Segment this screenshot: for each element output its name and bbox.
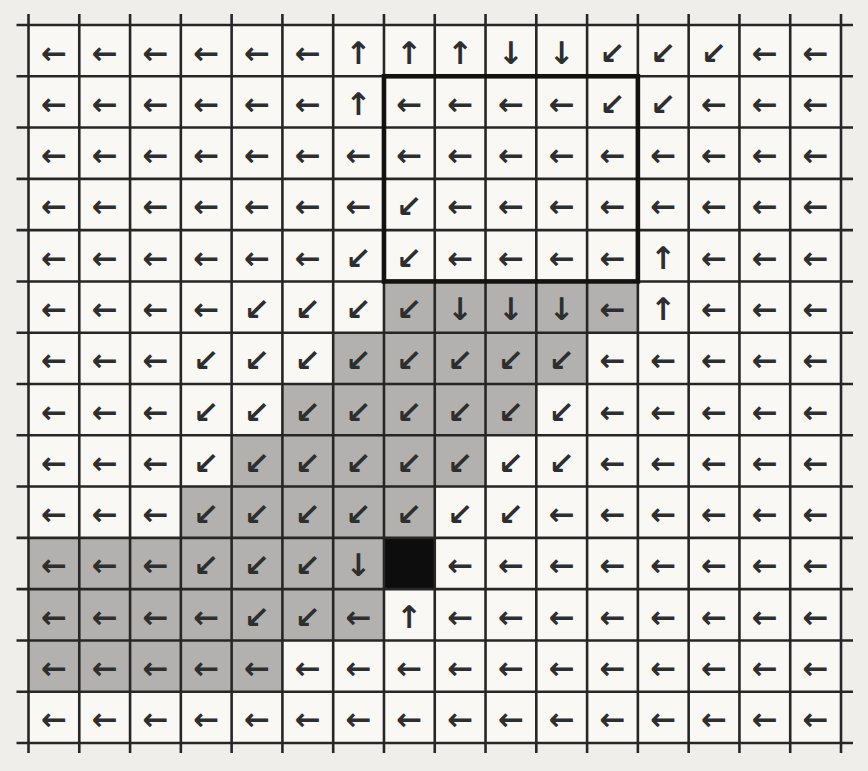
arrow-left-icon: ← bbox=[498, 701, 524, 737]
arrow-down-left-icon: ↙ bbox=[549, 394, 575, 430]
arrow-down-left-icon: ↙ bbox=[295, 394, 321, 430]
arrow-left-icon: ← bbox=[92, 547, 118, 583]
arrow-up-icon: ↑ bbox=[650, 240, 676, 276]
arrow-down-left-icon: ↙ bbox=[193, 547, 219, 583]
arrow-left-icon: ← bbox=[498, 599, 524, 635]
arrow-down-left-icon: ↙ bbox=[346, 496, 372, 532]
arrow-left-icon: ← bbox=[193, 291, 219, 327]
arrow-left-icon: ← bbox=[650, 342, 676, 378]
arrow-down-left-icon: ↙ bbox=[650, 86, 676, 122]
arrow-left-icon: ← bbox=[803, 547, 829, 583]
arrow-left-icon: ← bbox=[142, 291, 168, 327]
arrow-left-icon: ← bbox=[41, 137, 67, 173]
arrow-left-icon: ← bbox=[701, 496, 727, 532]
arrow-left-icon: ← bbox=[193, 86, 219, 122]
arrow-down-left-icon: ↙ bbox=[396, 445, 422, 481]
arrow-left-icon: ← bbox=[752, 240, 778, 276]
arrow-left-icon: ← bbox=[92, 496, 118, 532]
arrow-left-icon: ← bbox=[803, 599, 829, 635]
arrow-left-icon: ← bbox=[193, 701, 219, 737]
arrow-left-icon: ← bbox=[92, 35, 118, 71]
arrow-left-icon: ← bbox=[549, 188, 575, 224]
arrow-left-icon: ← bbox=[650, 650, 676, 686]
arrow-up-icon: ↑ bbox=[650, 291, 676, 327]
arrow-left-icon: ← bbox=[244, 86, 270, 122]
page-background: ←←←←←←↑↑↑↓↓↙↙↙←←←←←←←←↑←←←←↙↙←←←←←←←←←←←… bbox=[0, 0, 868, 771]
arrow-left-icon: ← bbox=[599, 394, 625, 430]
arrow-left-icon: ← bbox=[295, 240, 321, 276]
arrow-down-left-icon: ↙ bbox=[599, 86, 625, 122]
arrow-left-icon: ← bbox=[41, 342, 67, 378]
arrow-down-left-icon: ↙ bbox=[396, 240, 422, 276]
arrow-left-icon: ← bbox=[701, 86, 727, 122]
arrow-left-icon: ← bbox=[498, 650, 524, 686]
arrow-left-icon: ← bbox=[92, 137, 118, 173]
arrow-left-icon: ← bbox=[701, 650, 727, 686]
arrow-left-icon: ← bbox=[599, 445, 625, 481]
arrow-left-icon: ← bbox=[650, 445, 676, 481]
arrow-left-icon: ← bbox=[142, 240, 168, 276]
arrow-left-icon: ← bbox=[803, 701, 829, 737]
arrow-down-left-icon: ↙ bbox=[244, 445, 270, 481]
arrow-down-left-icon: ↙ bbox=[346, 394, 372, 430]
arrow-down-left-icon: ↙ bbox=[498, 496, 524, 532]
arrow-left-icon: ← bbox=[549, 599, 575, 635]
arrow-down-left-icon: ↙ bbox=[498, 342, 524, 378]
arrow-left-icon: ← bbox=[752, 35, 778, 71]
arrow-left-icon: ← bbox=[92, 240, 118, 276]
arrow-left-icon: ← bbox=[142, 599, 168, 635]
arrow-down-left-icon: ↙ bbox=[396, 496, 422, 532]
arrow-left-icon: ← bbox=[803, 650, 829, 686]
arrow-down-left-icon: ↙ bbox=[244, 496, 270, 532]
arrow-left-icon: ← bbox=[346, 599, 372, 635]
arrow-left-icon: ← bbox=[752, 342, 778, 378]
arrow-left-icon: ← bbox=[41, 701, 67, 737]
arrow-left-icon: ← bbox=[701, 445, 727, 481]
arrow-left-icon: ← bbox=[599, 650, 625, 686]
arrow-down-icon: ↓ bbox=[498, 291, 524, 327]
arrow-left-icon: ← bbox=[549, 240, 575, 276]
arrow-left-icon: ← bbox=[92, 599, 118, 635]
arrow-left-icon: ← bbox=[447, 701, 473, 737]
arrow-left-icon: ← bbox=[803, 240, 829, 276]
arrow-down-left-icon: ↙ bbox=[193, 445, 219, 481]
arrow-down-left-icon: ↙ bbox=[447, 394, 473, 430]
arrow-left-icon: ← bbox=[142, 342, 168, 378]
arrow-left-icon: ← bbox=[244, 35, 270, 71]
arrow-up-icon: ↑ bbox=[447, 35, 473, 71]
arrow-left-icon: ← bbox=[752, 188, 778, 224]
arrow-down-left-icon: ↙ bbox=[244, 394, 270, 430]
arrow-left-icon: ← bbox=[650, 137, 676, 173]
arrow-left-icon: ← bbox=[41, 188, 67, 224]
arrow-left-icon: ← bbox=[92, 701, 118, 737]
arrow-down-left-icon: ↙ bbox=[193, 342, 219, 378]
arrow-left-icon: ← bbox=[41, 86, 67, 122]
arrow-left-icon: ← bbox=[142, 86, 168, 122]
arrow-left-icon: ← bbox=[549, 86, 575, 122]
arrow-left-icon: ← bbox=[41, 240, 67, 276]
arrow-left-icon: ← bbox=[803, 137, 829, 173]
arrow-left-icon: ← bbox=[599, 547, 625, 583]
policy-grid-figure: ←←←←←←↑↑↑↓↓↙↙↙←←←←←←←←↑←←←←↙↙←←←←←←←←←←←… bbox=[0, 0, 868, 771]
arrow-left-icon: ← bbox=[447, 547, 473, 583]
arrow-left-icon: ← bbox=[92, 291, 118, 327]
arrow-down-left-icon: ↙ bbox=[244, 547, 270, 583]
arrow-down-left-icon: ↙ bbox=[396, 342, 422, 378]
arrow-left-icon: ← bbox=[701, 394, 727, 430]
arrow-down-left-icon: ↙ bbox=[244, 342, 270, 378]
arrow-left-icon: ← bbox=[41, 650, 67, 686]
arrow-left-icon: ← bbox=[447, 86, 473, 122]
arrow-left-icon: ← bbox=[803, 188, 829, 224]
arrow-down-left-icon: ↙ bbox=[346, 291, 372, 327]
arrow-down-left-icon: ↙ bbox=[549, 445, 575, 481]
arrow-left-icon: ← bbox=[295, 188, 321, 224]
arrow-down-left-icon: ↙ bbox=[447, 342, 473, 378]
arrow-left-icon: ← bbox=[92, 394, 118, 430]
arrow-left-icon: ← bbox=[142, 701, 168, 737]
arrow-down-left-icon: ↙ bbox=[346, 240, 372, 276]
arrow-down-left-icon: ↙ bbox=[447, 445, 473, 481]
arrow-left-icon: ← bbox=[346, 137, 372, 173]
arrow-left-icon: ← bbox=[295, 35, 321, 71]
arrow-left-icon: ← bbox=[701, 137, 727, 173]
arrow-down-icon: ↓ bbox=[549, 291, 575, 327]
